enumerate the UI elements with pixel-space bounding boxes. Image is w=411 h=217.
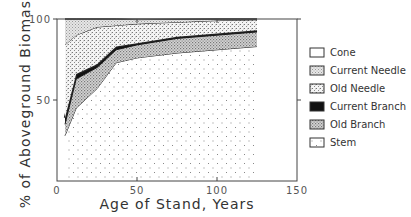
legend-item-old-needle: Old Needle	[310, 83, 385, 94]
y-tick-label: 50	[36, 95, 51, 106]
stacked-areas	[65, 19, 257, 181]
legend-label: Old Branch	[330, 119, 385, 130]
x-tick-label: 150	[286, 185, 308, 196]
legend-swatch	[310, 138, 324, 147]
legend: ConeCurrent NeedleOld NeedleCurrent Bran…	[310, 47, 406, 148]
legend-item-current-needle: Current Needle	[310, 65, 406, 76]
legend-swatch	[310, 66, 324, 75]
x-axis-label: Age of Stand, Years	[99, 196, 254, 212]
legend-swatch	[310, 102, 324, 111]
legend-label: Stem	[330, 137, 356, 148]
y-axis-label: % of Aboveground Biomass	[17, 0, 33, 208]
legend-label: Cone	[330, 47, 356, 58]
legend-item-old-branch: Old Branch	[310, 119, 385, 130]
biomass-chart: 05010015050100 % of Aboveground Biomass …	[0, 0, 411, 217]
legend-label: Old Needle	[330, 83, 385, 94]
legend-item-current-branch: Current Branch	[310, 101, 406, 112]
x-tick-label: 100	[206, 185, 228, 196]
x-tick-label: 50	[130, 185, 145, 196]
legend-swatch	[310, 48, 324, 57]
legend-item-cone: Cone	[310, 47, 356, 58]
legend-label: Current Branch	[330, 101, 406, 112]
legend-swatch	[310, 84, 324, 93]
legend-item-stem: Stem	[310, 137, 356, 148]
x-tick-label: 0	[53, 185, 60, 196]
legend-swatch	[310, 120, 324, 129]
legend-label: Current Needle	[330, 65, 406, 76]
